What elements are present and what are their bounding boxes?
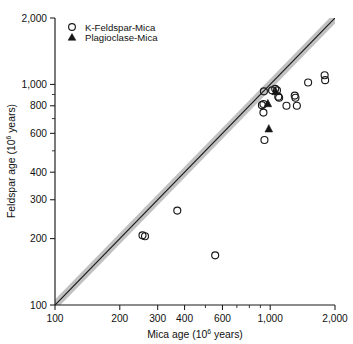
data-point	[261, 136, 268, 143]
y-axis-title: Feldspar age (106 years)	[5, 104, 17, 218]
data-point	[322, 77, 329, 84]
y-tick-label: 1,000	[22, 79, 48, 90]
x-tick-label: 200	[111, 313, 128, 324]
y-tick-label: 100	[30, 300, 47, 311]
y-tick-label: 800	[30, 100, 47, 111]
y-tick-label: 2,000	[22, 13, 48, 24]
x-tick-label: 300	[149, 313, 166, 324]
data-point	[212, 252, 219, 259]
data-point	[283, 102, 290, 109]
data-point	[305, 79, 312, 86]
data-point	[260, 109, 267, 116]
x-tick-label: 600	[214, 313, 231, 324]
legend-label-plagioclase-mica: Plagioclase-Mica	[85, 32, 158, 43]
data-point	[293, 102, 300, 109]
reference-line-group	[55, 12, 335, 310]
chart-figure: 1002003004006008001,0002,000 10020030040…	[0, 0, 353, 344]
x-tick-label: 1,000	[257, 313, 283, 324]
y-tick-label: 200	[30, 233, 47, 244]
data-markers	[139, 72, 329, 259]
scatter-plot: 1002003004006008001,0002,000 10020030040…	[0, 0, 353, 344]
x-tick-label: 400	[176, 313, 193, 324]
legend-marker-filled-triangle	[68, 34, 76, 41]
x-tick-label: 2,000	[322, 313, 348, 324]
one-to-one-line	[55, 18, 335, 305]
y-axis-ticks: 1002003004006008001,0002,000	[22, 13, 56, 311]
y-tick-label: 300	[30, 194, 47, 205]
x-axis-title: Mica age (106 years)	[147, 328, 243, 340]
y-tick-label: 400	[30, 167, 47, 178]
data-point	[174, 207, 181, 214]
legend-marker-open-circle	[69, 24, 76, 31]
chart-legend: K-Feldspar-Mica Plagioclase-Mica	[68, 22, 158, 43]
x-tick-label: 100	[47, 313, 64, 324]
data-point	[265, 125, 273, 132]
y-tick-label: 600	[30, 128, 47, 139]
x-axis-ticks: 1002003004006001,0002,000	[47, 305, 349, 324]
